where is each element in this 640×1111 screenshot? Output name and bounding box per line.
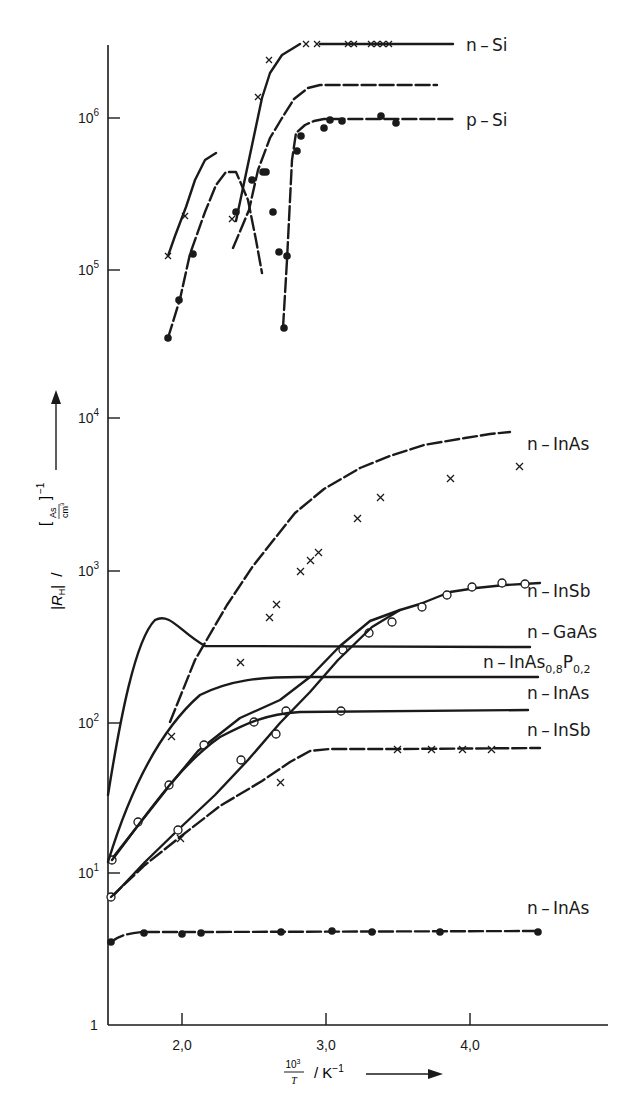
y-label-exponent: −1: [35, 482, 46, 494]
x-tick-label: 3,0: [316, 1037, 336, 1053]
series-labels: n – Si p – Si n – InAs n – InSb n – GaAs…: [466, 35, 597, 918]
x-tick-labels: 2,0 3,0 4,0: [172, 1037, 480, 1053]
n-inas-upper-markers: [168, 463, 523, 740]
series-n-inas-middle-plateau: [112, 710, 528, 860]
series-p-si: [164, 112, 455, 342]
hall-coefficient-chart: 106 105 104 103 102 101 1 2,0 3,0 4,0 10…: [0, 0, 640, 1111]
y-tick-labels: 106 105 104 103 102 101 1: [78, 107, 100, 1033]
series-n-inas-middle: [107, 610, 528, 901]
label-n-inas-upper: n – InAs: [527, 434, 589, 454]
n-si-line: [233, 85, 437, 248]
y-arrow-head-icon: [51, 390, 61, 404]
y-label-cm: cm3: [59, 502, 70, 518]
label-n-inas-p: n – InAs0,8P0,2: [483, 652, 591, 676]
x-tick-label: 4,0: [460, 1037, 480, 1053]
series-n-gaas: [108, 618, 530, 795]
y-tick-label: 102: [78, 712, 100, 731]
n-inas-lower-line: [111, 931, 540, 942]
y-tick-label: 104: [78, 407, 100, 426]
y-label-bracket-open: [: [36, 521, 53, 526]
label-n-si: n – Si: [466, 35, 508, 55]
label-p-si: p – Si: [466, 110, 508, 130]
label-n-gaas: n – GaAs: [527, 622, 597, 642]
y-axis-label: |RH|/ [ As cm3 ] −1: [35, 390, 70, 610]
label-n-inas-lower: n – InAs: [527, 898, 589, 918]
x-label-denominator: T: [291, 1075, 298, 1086]
y-label-bracket-close: ]: [36, 496, 53, 500]
x-tick-label: 2,0: [172, 1037, 192, 1053]
y-tick-label: 106: [78, 107, 100, 126]
series-n-insb-lower: [111, 746, 540, 897]
axes: [108, 45, 608, 1025]
p-si-left: [168, 172, 262, 338]
x-label-unit: / K−1: [314, 1063, 344, 1081]
series-n-inas-lower: [107, 927, 542, 946]
n-gaas-line: [108, 618, 530, 795]
x-axis-label: 103 T / K−1: [284, 1058, 443, 1086]
y-tick-label: 105: [78, 259, 100, 278]
n-inas-upper-line: [170, 432, 510, 722]
label-n-insb-lower: n – InSb: [527, 720, 590, 740]
y-tick-label: 101: [78, 862, 100, 881]
y-tick-label: 103: [78, 560, 100, 579]
p-si-right: [283, 119, 455, 328]
series-n-si: [165, 41, 453, 259]
y-label-rh: |RH|/: [48, 572, 67, 610]
x-arrow-head-icon: [428, 1069, 443, 1079]
label-n-inas-middle: n – InAs: [527, 683, 589, 703]
n-inas-middle-markers: [107, 707, 345, 901]
label-n-insb-upper: n – InSb: [527, 581, 590, 601]
y-tick-label: 1: [90, 1017, 98, 1033]
y-label-as: As: [48, 507, 58, 518]
x-label-numerator: 103: [285, 1058, 300, 1070]
n-inas-middle-rise: [112, 610, 400, 897]
n-insb-lower-line: [111, 748, 540, 897]
n-inas-middle-plateau-line: [112, 710, 528, 860]
